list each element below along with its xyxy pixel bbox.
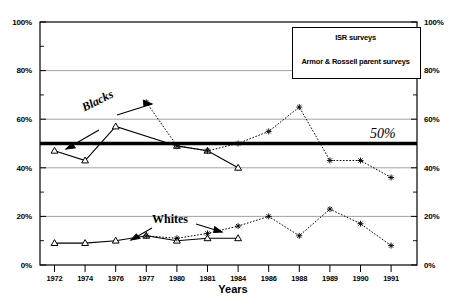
annotation-whites: Whites <box>152 212 188 227</box>
y-axis-left-label-20: 20% <box>2 212 32 221</box>
legend-item-isr-label: ISR surveys <box>292 33 419 42</box>
y-axis-right-label-0: 0% <box>424 261 458 270</box>
x-axis-ticks <box>55 265 392 272</box>
y-axis-right-label-20: 20% <box>424 212 458 221</box>
y-axis-left-label-60: 60% <box>2 115 32 124</box>
x-axis-label-1991: 1991 <box>371 274 411 283</box>
y-axis-left-label-0: 0% <box>2 261 32 270</box>
legend-item-armor-label: Armor & Rossell parent surveys <box>292 57 419 66</box>
y-axis-right-label-100: 100% <box>424 18 458 27</box>
fifty-percent-label: 50% <box>370 126 396 142</box>
y-axis-right-label-80: 80% <box>424 66 458 75</box>
y-axis-left-label-80: 80% <box>2 66 32 75</box>
x-axis-title: Years <box>0 283 466 295</box>
chart-container: ISR surveys Armor & Rossell parent surve… <box>0 0 466 306</box>
y-axis-left-label-40: 40% <box>2 164 32 173</box>
y-axis-right-label-60: 60% <box>424 115 458 124</box>
y-axis-right-label-40: 40% <box>424 164 458 173</box>
y-axis-left-label-100: 100% <box>2 18 32 27</box>
